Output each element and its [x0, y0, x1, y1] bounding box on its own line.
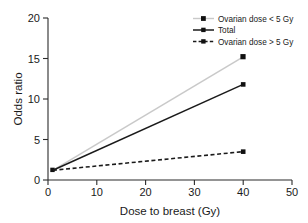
x-tick-30: 30 [188, 186, 200, 198]
y-tick-20: 20 [28, 12, 40, 24]
series-marker-total-end [241, 82, 246, 87]
chart-figure: 0 5 10 15 20 0 10 20 30 40 50 Dose to br… [0, 0, 308, 223]
x-tick-10: 10 [91, 186, 103, 198]
y-axis-title: Odds ratio [12, 72, 24, 125]
legend-label-total: Total [218, 26, 235, 35]
odds-ratio-line-chart: 0 5 10 15 20 0 10 20 30 40 50 Dose to br… [0, 0, 308, 223]
x-tick-50: 50 [286, 186, 298, 198]
series-marker-ovarian-gt5-end [241, 149, 246, 154]
series-marker-ovarian-lt5-end [240, 54, 245, 59]
legend-label-ovarian-gt5: Ovarian dose > 5 Gy [218, 38, 294, 47]
legend-swatch-marker-total [201, 28, 205, 32]
x-tick-0: 0 [45, 186, 51, 198]
legend-swatch-marker-ovarian-gt5 [201, 39, 205, 43]
x-tick-40: 40 [237, 186, 249, 198]
legend-swatch-marker-ovarian-lt5 [201, 16, 206, 21]
y-tick-0: 0 [34, 174, 40, 186]
y-tick-5: 5 [34, 134, 40, 146]
x-tick-20: 20 [139, 186, 151, 198]
legend-label-ovarian-lt5: Ovarian dose < 5 Gy [218, 15, 294, 24]
y-tick-15: 15 [28, 53, 40, 65]
x-axis-title: Dose to breast (Gy) [120, 205, 221, 217]
y-tick-10: 10 [28, 93, 40, 105]
